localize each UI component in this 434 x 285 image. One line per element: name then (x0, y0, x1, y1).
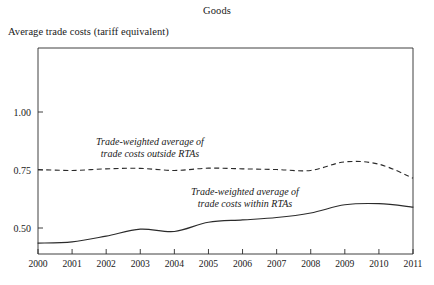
y-tick-label: 0.50 (14, 223, 32, 234)
chart-figure: Goods Average trade costs (tariff equiva… (0, 0, 434, 285)
x-tick-label: 2002 (97, 258, 116, 269)
annotation-line-1: Trade-weighted average of (96, 136, 205, 147)
series-line-within-rtas (38, 203, 413, 243)
x-tick-label: 2001 (62, 258, 81, 269)
series-annotation-outside: Trade-weighted average oftrade costs out… (96, 136, 205, 159)
plot-area: 1.000.750.50 200020012002200320042005200… (0, 0, 434, 285)
x-tick-label: 2000 (28, 258, 47, 269)
series-line-outside-rtas (38, 161, 413, 178)
axis-frame (38, 48, 413, 254)
y-tick-label: 1.00 (14, 107, 32, 118)
annotation-line-1: Trade-weighted average of (191, 186, 300, 197)
x-tick-label: 2007 (267, 258, 286, 269)
x-tick-label: 2010 (369, 258, 388, 269)
y-tick-label: 0.75 (14, 165, 32, 176)
x-tick-label: 2006 (233, 258, 252, 269)
x-tick-label: 2008 (301, 258, 320, 269)
axis-top-right (38, 48, 413, 254)
annotation-group: Trade-weighted average oftrade costs out… (96, 136, 300, 209)
x-tick-label: 2011 (404, 258, 423, 269)
annotation-line-2: trade costs outside RTAs (101, 148, 200, 159)
x-tick-label: 2004 (165, 258, 184, 269)
series-annotation-within: Trade-weighted average oftrade costs wit… (191, 186, 300, 209)
annotation-line-2: trade costs within RTAs (198, 198, 293, 209)
x-tick-group: 2000200120022003200420052006200720082009… (28, 249, 422, 269)
x-tick-label: 2009 (335, 258, 354, 269)
axis-left-bottom (38, 48, 413, 254)
x-tick-label: 2005 (199, 258, 218, 269)
x-tick-label: 2003 (131, 258, 150, 269)
